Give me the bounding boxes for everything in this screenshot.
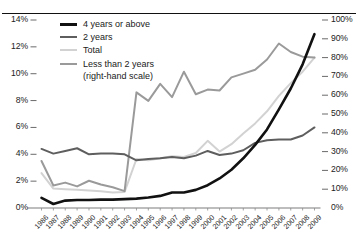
left-axis-tick-label: 10% bbox=[0, 68, 28, 78]
series-line-2-years bbox=[42, 127, 315, 160]
left-axis-tick-label: 12% bbox=[0, 41, 28, 51]
legend-item: 2 years bbox=[60, 31, 154, 44]
right-axis-tick-label: 40% bbox=[331, 127, 348, 137]
chart-container: 0%2%4%6%8%10%12%14% 0%10%20%30%40%50%60%… bbox=[0, 0, 358, 241]
legend-item: 4 years or above bbox=[60, 18, 154, 31]
legend-item-label: 2 years bbox=[83, 31, 113, 43]
legend-swatch-icon bbox=[60, 36, 77, 38]
right-axis-tick-label: 60% bbox=[331, 89, 348, 99]
legend-item-label: Total bbox=[83, 44, 102, 56]
chart-plot-area bbox=[0, 0, 358, 241]
legend-swatch-icon bbox=[60, 23, 77, 26]
left-axis-tick-label: 14% bbox=[0, 14, 28, 24]
legend-item: Total bbox=[60, 44, 154, 57]
right-axis-tick-label: 30% bbox=[331, 146, 348, 156]
right-axis-tick-label: 90% bbox=[331, 33, 348, 43]
right-axis-tick-label: 0% bbox=[331, 202, 343, 212]
legend-item-note: (right-hand scale) bbox=[83, 71, 154, 82]
left-axis-tick-label: 2% bbox=[0, 175, 28, 185]
legend-swatch-icon bbox=[60, 63, 77, 65]
left-axis-tick-label: 6% bbox=[0, 121, 28, 131]
right-axis-tick-label: 100% bbox=[331, 14, 353, 24]
right-axis-tick-label: 80% bbox=[331, 52, 348, 62]
chart-legend: 4 years or above2 yearsTotalLess than 2 … bbox=[60, 18, 154, 82]
left-axis-tick-label: 0% bbox=[0, 202, 28, 212]
right-axis-tick-label: 20% bbox=[331, 164, 348, 174]
left-axis-tick-label: 8% bbox=[0, 95, 28, 105]
left-axis-tick-label: 4% bbox=[0, 148, 28, 158]
legend-swatch-icon bbox=[60, 49, 77, 51]
legend-item-label: 4 years or above bbox=[83, 18, 150, 30]
right-axis-tick-label: 70% bbox=[331, 70, 348, 80]
right-axis-tick-label: 10% bbox=[331, 183, 348, 193]
right-axis-tick-label: 50% bbox=[331, 108, 348, 118]
legend-item: Less than 2 years bbox=[60, 58, 154, 71]
legend-item-label: Less than 2 years bbox=[83, 58, 154, 70]
